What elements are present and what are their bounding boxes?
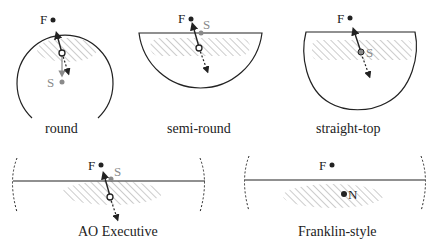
F-label: F — [40, 12, 47, 27]
N-point — [341, 191, 347, 197]
lens-edge-left-dashed — [13, 158, 18, 212]
optical-center-marker — [107, 194, 113, 200]
F-point — [348, 16, 353, 21]
caption-ao-executive: AO Executive — [78, 224, 158, 239]
panel-ao-executive: F S AO Executive — [13, 158, 206, 239]
S-label: S — [366, 45, 373, 60]
F-label: F — [88, 158, 95, 173]
panel-round: F S round — [17, 12, 113, 136]
lens-edge-left-dashed — [245, 156, 250, 211]
N-label: N — [348, 187, 358, 202]
optical-center-marker — [196, 45, 202, 51]
lens-edge-right-dashed — [421, 156, 426, 211]
F-point — [51, 18, 56, 23]
F-label: F — [178, 11, 185, 26]
caption-straight-top: straight-top — [316, 121, 381, 136]
panel-semi-round: F S semi-round — [139, 11, 262, 136]
F-point — [330, 163, 335, 168]
F-label: F — [337, 11, 344, 26]
caption-semi-round: semi-round — [167, 121, 231, 136]
panel-straight-top: F S straight-top — [304, 11, 417, 136]
optical-center-marker — [358, 49, 364, 55]
lens-edge-right-dashed — [200, 158, 205, 212]
S-label: S — [114, 164, 121, 179]
reading-zone-hatch — [37, 38, 97, 62]
S-label: S — [47, 75, 54, 90]
S-point — [109, 177, 114, 182]
caption-round: round — [45, 121, 78, 136]
S-label: S — [203, 17, 210, 32]
F-point — [189, 17, 194, 22]
F-label: F — [319, 158, 326, 173]
S-point — [60, 80, 65, 85]
reading-zone-hatch — [283, 184, 383, 208]
panel-franklin-style: F N Franklin-style — [245, 156, 426, 239]
F-point — [99, 163, 104, 168]
optical-center-marker — [59, 50, 65, 56]
lens-shape-diagram: F S round F S semi-round F S straight-to… — [0, 0, 437, 251]
caption-franklin-style: Franklin-style — [298, 224, 377, 239]
